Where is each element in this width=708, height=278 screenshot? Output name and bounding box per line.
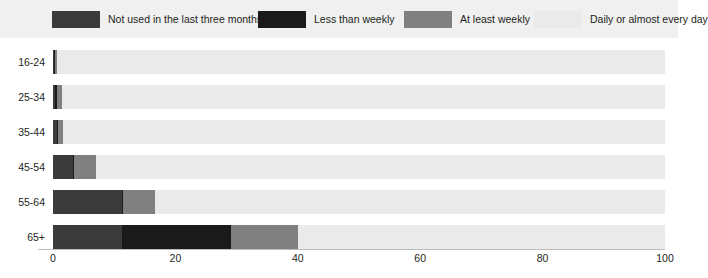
bar-category-label-35-44: 35-44 [0, 120, 45, 144]
bar-category-label-45-54: 45-54 [0, 155, 45, 179]
x-tick-label-20: 20 [170, 253, 182, 264]
legend-label-less-than-weekly: Less than weekly [314, 14, 395, 25]
chart-legend: Not used in the last three months Less t… [0, 0, 678, 38]
x-axis-line [38, 249, 665, 250]
legend-swatch-not-used [52, 11, 100, 28]
legend-label-daily: Daily or almost every day [590, 14, 708, 25]
bar-track [53, 190, 665, 214]
x-tick-label-40: 40 [292, 253, 304, 264]
legend-label-at-least-weekly: At least weekly [460, 14, 530, 25]
bar-row: 55-64 [0, 190, 678, 214]
bar-track [53, 155, 665, 179]
bar-category-label-16-24: 16-24 [0, 50, 45, 74]
bar-segment [96, 155, 665, 179]
bar-segment [231, 225, 298, 249]
bar-segment [57, 50, 665, 74]
legend-swatch-daily [534, 11, 582, 28]
bar-segment [74, 155, 96, 179]
bar-segment [122, 225, 231, 249]
legend-item-daily: Daily or almost every day [534, 0, 708, 38]
bar-category-label-65plus: 65+ [0, 225, 45, 249]
bar-track [53, 225, 665, 249]
bar-track [53, 85, 665, 109]
bar-segment [53, 155, 73, 179]
legend-item-not-used: Not used in the last three months [52, 0, 262, 38]
legend-item-at-least-weekly: At least weekly [404, 0, 530, 38]
legend-label-not-used: Not used in the last three months [108, 14, 262, 25]
bar-segment [53, 225, 122, 249]
bar-category-label-55-64: 55-64 [0, 190, 45, 214]
legend-swatch-less-than-weekly [258, 11, 306, 28]
chart-plot-area: 16-2425-3435-4445-5455-6465+ [0, 38, 678, 278]
bar-segment [298, 225, 665, 249]
bar-row: 45-54 [0, 155, 678, 179]
bar-segment [155, 190, 665, 214]
bar-row: 16-24 [0, 50, 678, 74]
legend-swatch-at-least-weekly [404, 11, 452, 28]
bar-track [53, 120, 665, 144]
bar-segment [63, 120, 665, 144]
x-axis-tick-labels: 020406080100 [0, 253, 678, 271]
x-tick-label-0: 0 [50, 253, 56, 264]
bar-segment [123, 190, 155, 214]
legend-item-less-than-weekly: Less than weekly [258, 0, 395, 38]
bar-segment [53, 190, 122, 214]
bar-row: 35-44 [0, 120, 678, 144]
bar-track [53, 50, 665, 74]
bar-row: 65+ [0, 225, 678, 249]
x-tick-label-60: 60 [414, 253, 426, 264]
x-tick-label-80: 80 [537, 253, 549, 264]
bar-category-label-25-34: 25-34 [0, 85, 45, 109]
bar-row: 25-34 [0, 85, 678, 109]
bar-segment [62, 85, 665, 109]
x-tick-label-100: 100 [656, 253, 674, 264]
